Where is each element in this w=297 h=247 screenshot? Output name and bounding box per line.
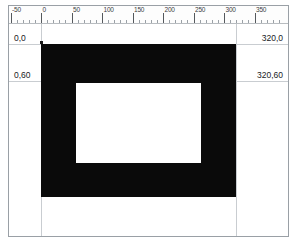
ruler-tick-minor xyxy=(23,20,24,23)
ruler-tick-label: 0 xyxy=(43,6,46,14)
ruler-tick-minor xyxy=(84,20,85,23)
ruler-tick-label: 300 xyxy=(226,6,236,14)
ruler-tick-major xyxy=(102,13,103,23)
ruler-tick-minor xyxy=(242,20,243,23)
geometry-viewer: -50050100150200250300350 0,0320,00,60320… xyxy=(0,0,297,247)
ruler-tick-minor xyxy=(139,20,140,23)
coord-middle-right: 320,60 xyxy=(257,70,283,81)
ruler-tick-minor xyxy=(267,20,268,23)
ruler-tick-major xyxy=(11,13,12,23)
ruler-tick-minor xyxy=(17,20,18,23)
ruler-tick-minor xyxy=(151,20,152,23)
ruler-tick-minor xyxy=(114,20,115,23)
ruler-tick-minor xyxy=(78,20,79,23)
ruler-tick-minor xyxy=(120,20,121,23)
ruler-tick-major xyxy=(72,13,73,23)
ruler-tick-label: 150 xyxy=(134,6,144,14)
ruler-tick-label: 350 xyxy=(256,6,266,14)
ruler-tick-label: 250 xyxy=(195,6,205,14)
shape-inner-hole[interactable] xyxy=(76,83,201,163)
ruler-tick-minor xyxy=(218,20,219,23)
coord-middle-left: 0,60 xyxy=(14,70,31,81)
coord-top-right: 320,0 xyxy=(262,33,283,44)
ruler-tick-minor xyxy=(96,20,97,23)
ruler-tick-label: 200 xyxy=(165,6,175,14)
ruler-tick-major xyxy=(255,13,256,23)
ruler-tick-major xyxy=(194,13,195,23)
ruler-tick-minor xyxy=(47,20,48,23)
ruler-tick-minor xyxy=(230,20,231,23)
ruler-tick-minor xyxy=(273,20,274,23)
ruler-tick-label: -50 xyxy=(12,6,21,14)
ruler-tick-minor xyxy=(157,20,158,23)
ruler-tick-minor xyxy=(169,20,170,23)
ruler-tick-minor xyxy=(181,20,182,23)
ruler-tick-label: 100 xyxy=(104,6,114,14)
ruler-tick-minor xyxy=(175,20,176,23)
ruler-tick-minor xyxy=(187,20,188,23)
ruler-tick-minor xyxy=(212,20,213,23)
ruler-tick-minor xyxy=(145,20,146,23)
ruler-tick-major xyxy=(224,13,225,23)
ruler-tick-major xyxy=(133,13,134,23)
ruler-tick-minor xyxy=(90,20,91,23)
ruler-tick-minor xyxy=(248,20,249,23)
drawing-canvas[interactable]: 0,0320,00,60320,60 xyxy=(9,24,288,236)
ruler-tick-minor xyxy=(126,20,127,23)
ruler-tick-label: 50 xyxy=(73,6,80,14)
ruler-tick-minor xyxy=(35,20,36,23)
ruler-tick-minor xyxy=(53,20,54,23)
ruler-tick-major xyxy=(163,13,164,23)
ruler-tick-minor xyxy=(206,20,207,23)
ruler-tick-minor xyxy=(200,20,201,23)
origin-node-handle[interactable] xyxy=(40,41,43,44)
ruler-tick-minor xyxy=(65,20,66,23)
ruler-tick-minor xyxy=(279,20,280,23)
ruler-tick-minor xyxy=(29,20,30,23)
ruler-tick-minor xyxy=(59,20,60,23)
vertical-guide-line[interactable] xyxy=(236,24,237,236)
horizontal-ruler[interactable]: -50050100150200250300350 xyxy=(9,6,288,24)
ruler-tick-minor xyxy=(236,20,237,23)
ruler-ticks: -50050100150200250300350 xyxy=(9,6,288,23)
ruler-tick-major xyxy=(41,13,42,23)
ruler-tick-minor xyxy=(261,20,262,23)
ruler-tick-minor xyxy=(108,20,109,23)
coord-top-left: 0,0 xyxy=(14,33,26,44)
